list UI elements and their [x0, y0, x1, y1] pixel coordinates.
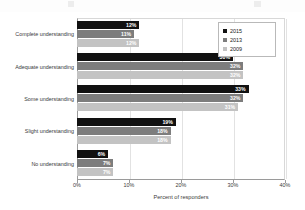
ghost-mark-left	[68, 1, 74, 7]
legend[interactable]: 201520132009	[218, 22, 276, 57]
bar-value-label: 12%	[126, 39, 136, 47]
legend-label: 2015	[230, 28, 242, 34]
legend-label: 2013	[230, 37, 242, 43]
bar[interactable]: 7%	[77, 168, 113, 176]
bar-value-label: 32%	[230, 94, 240, 102]
category-label: Adequate understanding	[0, 64, 74, 70]
x-tick-label: 30%	[228, 182, 239, 188]
bar[interactable]: 30%	[77, 53, 233, 61]
x-tick-label: 10%	[124, 182, 135, 188]
bar-value-label: 7%	[103, 159, 111, 167]
legend-swatch-icon	[223, 38, 227, 42]
bar[interactable]: 19%	[77, 118, 176, 126]
category-label: Some understanding	[0, 96, 74, 102]
bar[interactable]: 32%	[77, 62, 243, 70]
x-tick-label: 40%	[280, 182, 291, 188]
x-axis-title: Percent of responders	[77, 194, 285, 200]
bar-value-label: 32%	[230, 62, 240, 70]
bar[interactable]: 33%	[77, 85, 249, 93]
category-label: No understanding	[0, 161, 74, 167]
bar-value-label: 11%	[121, 30, 131, 38]
x-tick-label: 0%	[73, 182, 81, 188]
bar-value-label: 18%	[157, 127, 167, 135]
bar[interactable]: 12%	[77, 21, 139, 29]
bar-value-label: 32%	[230, 71, 240, 79]
page-top-strip	[0, 0, 305, 12]
bar-value-label: 12%	[126, 21, 136, 29]
ghost-mark-right	[254, 1, 261, 7]
category-label: Complete understanding	[0, 31, 74, 37]
bar[interactable]: 32%	[77, 94, 243, 102]
bar[interactable]: 7%	[77, 159, 113, 167]
bar-group: 33%32%31%	[77, 83, 285, 115]
bar[interactable]: 18%	[77, 136, 171, 144]
bar-value-label: 19%	[162, 118, 172, 126]
legend-swatch-icon	[223, 47, 227, 51]
legend-item[interactable]: 2015	[223, 26, 271, 35]
bar[interactable]: 6%	[77, 150, 108, 158]
bar[interactable]: 32%	[77, 71, 243, 79]
bar[interactable]: 31%	[77, 103, 238, 111]
gridline	[286, 19, 287, 179]
x-tick-label: 20%	[176, 182, 187, 188]
bar[interactable]: 11%	[77, 30, 134, 38]
legend-item[interactable]: 2009	[223, 44, 271, 53]
bar-value-label: 6%	[98, 150, 106, 158]
bar-value-label: 7%	[103, 168, 111, 176]
bar[interactable]: 12%	[77, 39, 139, 47]
chart-container: 12%11%12%30%32%32%33%32%31%19%18%18%6%7%…	[0, 12, 305, 210]
bar-value-label: 31%	[225, 103, 235, 111]
legend-swatch-icon	[223, 29, 227, 33]
bar-group: 6%7%7%	[77, 148, 285, 180]
legend-label: 2009	[230, 46, 242, 52]
bar-value-label: 18%	[157, 136, 167, 144]
bar-group: 19%18%18%	[77, 115, 285, 147]
bar-value-label: 33%	[235, 85, 245, 93]
category-label: Slight understanding	[0, 128, 74, 134]
bar[interactable]: 18%	[77, 127, 171, 135]
legend-item[interactable]: 2013	[223, 35, 271, 44]
